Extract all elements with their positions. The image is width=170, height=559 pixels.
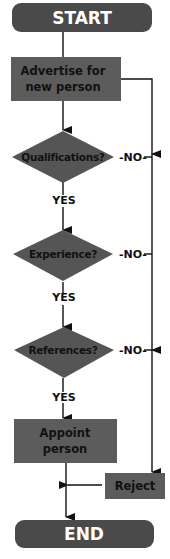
qualifications-yes-label: YES xyxy=(51,194,75,207)
advertise-label-line-2: new person xyxy=(25,80,100,94)
reject-label: Reject xyxy=(115,479,156,493)
experience-yes-label: YES xyxy=(51,291,75,304)
experience-no-label: -NO- xyxy=(119,248,147,261)
appoint-label-line-2: person xyxy=(43,442,88,456)
end-label: END xyxy=(64,524,104,544)
qualifications-decision: Qualifications? xyxy=(12,131,114,183)
end-terminal: END xyxy=(15,520,154,548)
reject-process: Reject xyxy=(105,473,165,499)
references-label: References? xyxy=(28,344,97,356)
references-decision: References? xyxy=(14,327,114,378)
advertise-label-line-1: Advertise for xyxy=(21,64,106,78)
start-label: START xyxy=(52,8,112,28)
qualifications-no-label: -NO- xyxy=(119,151,147,164)
references-no-label: -NO- xyxy=(119,344,147,357)
connector-advertise-reject-path xyxy=(121,79,152,154)
appoint-label-line-1: Appoint xyxy=(40,426,91,440)
qualifications-label: Qualifications? xyxy=(21,151,105,163)
advertise-process: Advertise for new person xyxy=(11,57,121,101)
experience-label: Experience? xyxy=(29,248,97,260)
flowchart: START Advertise for new person Qualifica… xyxy=(0,0,170,559)
experience-decision: Experience? xyxy=(13,230,113,281)
start-terminal: START xyxy=(12,3,152,32)
references-yes-label: YES xyxy=(51,391,75,404)
appoint-process: Appoint person xyxy=(14,419,117,463)
